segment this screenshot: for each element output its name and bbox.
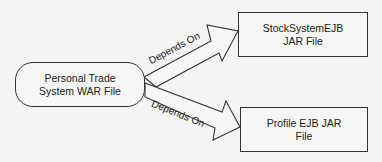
stock-system-line1: StockSystemEJB — [263, 22, 344, 35]
stock-system-ejb-node: StockSystemEJB JAR File — [238, 12, 368, 57]
stock-system-line2: JAR File — [263, 35, 344, 48]
war-file-line1: Personal Trade — [39, 72, 121, 85]
profile-ejb-node: Profile EJB JAR File — [240, 107, 368, 152]
profile-line1: Profile EJB JAR — [267, 117, 342, 130]
war-file-line2: System WAR File — [39, 85, 121, 98]
war-file-node: Personal Trade System WAR File — [15, 62, 145, 107]
profile-line2: File — [267, 130, 342, 143]
